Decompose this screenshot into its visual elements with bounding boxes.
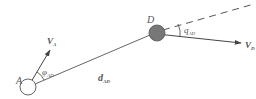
label-velocity-d: VD xyxy=(245,40,255,51)
label-angle-q: qAD xyxy=(184,25,196,36)
label-point-a: A xyxy=(15,75,23,86)
label-point-d: D xyxy=(146,14,155,25)
geometry-diagram: A D VA VD dAD φAD qAD xyxy=(0,0,256,99)
velocity-d-arrow xyxy=(157,34,241,43)
point-d-target xyxy=(149,25,165,41)
label-angle-phi: φAD xyxy=(42,67,54,78)
label-distance: dAD xyxy=(98,72,110,84)
dashed-extension-line xyxy=(163,4,254,30)
point-a-circle xyxy=(20,79,36,95)
label-velocity-a: VA xyxy=(47,36,57,47)
